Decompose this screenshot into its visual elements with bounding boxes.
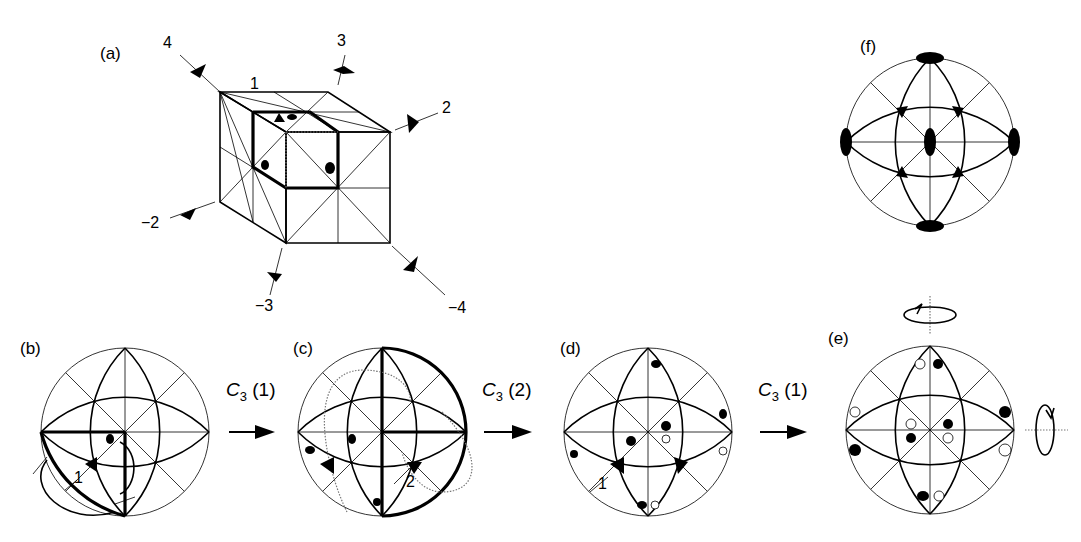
axis-label-neg2: −2 xyxy=(141,215,159,231)
stereogram-d xyxy=(564,348,732,516)
stereogram-e xyxy=(846,346,1014,514)
panel-label-a: (a) xyxy=(100,45,121,62)
axis-label-2: 2 xyxy=(442,100,451,116)
panel-label-c: (c) xyxy=(293,340,313,357)
operation-label-3: C3 (1) xyxy=(758,380,807,403)
axis-label-4: 4 xyxy=(163,35,172,51)
stereogram-c xyxy=(298,348,472,516)
cube-diagram xyxy=(170,55,445,295)
stereogram-f xyxy=(840,52,1020,232)
panel-label-b: (b) xyxy=(20,340,41,357)
marker-label-d: 1 xyxy=(598,476,607,492)
axis-label-3: 3 xyxy=(337,33,346,49)
stereogram-b xyxy=(33,348,209,516)
marker-label-c: 2 xyxy=(406,474,415,490)
arrow-b-to-c xyxy=(229,425,275,439)
operation-label-1: C3 (1) xyxy=(226,380,275,403)
panel-label-d: (d) xyxy=(560,340,581,357)
axis-label-1: 1 xyxy=(250,76,259,92)
operation-label-2: C3 (2) xyxy=(482,380,531,403)
arrow-d-to-e xyxy=(760,425,807,439)
arrow-c-to-d xyxy=(484,425,532,439)
rotation-axis-horizontal xyxy=(1025,405,1068,455)
symmetry-figure xyxy=(0,0,1081,542)
panel-label-f: (f) xyxy=(860,38,876,55)
axis-label-neg3: −3 xyxy=(255,298,273,314)
axis-label-neg4: −4 xyxy=(448,300,466,316)
rotation-axis-vertical xyxy=(904,296,956,334)
marker-label-b: 1 xyxy=(74,470,83,486)
panel-label-e: (e) xyxy=(828,330,849,347)
